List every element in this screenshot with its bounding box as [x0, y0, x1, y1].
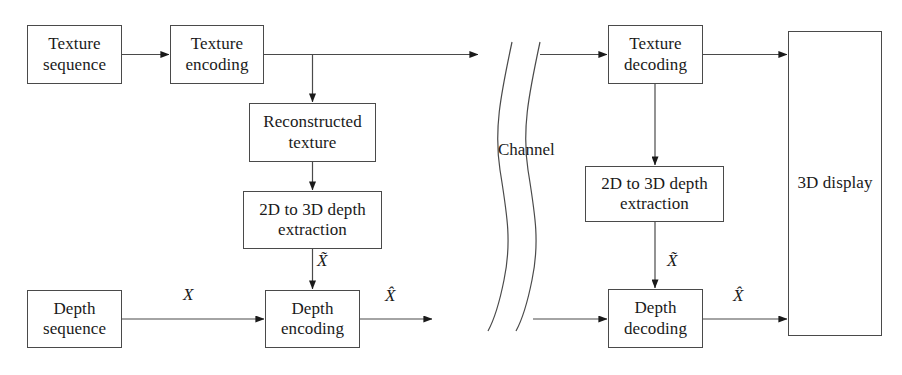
edge-label-x-plain-left: X	[183, 285, 193, 305]
edge-label-x-hat-right: X̂	[733, 286, 743, 306]
node-label: Depthencoding	[278, 299, 347, 339]
node-label: Depthsequence	[40, 299, 109, 339]
node-label: Texturesequence	[40, 34, 109, 74]
node-reconstructed-texture[interactable]: Reconstructedtexture	[249, 103, 376, 162]
node-label: 3D display	[794, 173, 875, 193]
node-texture-encoding[interactable]: Textureencoding	[170, 25, 264, 84]
diagram-canvas: Texturesequence Textureencoding Reconstr…	[0, 0, 902, 375]
edge-label-x-hat-left: X̂	[385, 286, 395, 306]
node-texture-decoding[interactable]: Texturedecoding	[608, 25, 703, 84]
channel-curve-left	[488, 42, 512, 331]
node-depth-extraction-right[interactable]: 2D to 3D depthextraction	[585, 166, 724, 222]
node-depth-decoding[interactable]: Depthdecoding	[608, 289, 703, 348]
node-texture-sequence[interactable]: Texturesequence	[27, 25, 122, 84]
node-depth-encoding[interactable]: Depthencoding	[265, 290, 360, 348]
node-depth-sequence[interactable]: Depthsequence	[27, 290, 122, 348]
channel-curve-right	[516, 42, 540, 331]
node-label: Depthdecoding	[621, 298, 690, 338]
node-label: 2D to 3D depthextraction	[256, 200, 369, 240]
edge-label-x-tilde-right: X̃	[667, 251, 677, 271]
node-label: 2D to 3D depthextraction	[598, 174, 711, 214]
node-label: Reconstructedtexture	[260, 112, 365, 152]
node-label: Texturedecoding	[621, 34, 690, 74]
edge-label-x-tilde-left: X̃	[317, 251, 327, 271]
channel-label: Channel	[498, 140, 555, 160]
node-depth-extraction-left[interactable]: 2D to 3D depthextraction	[243, 191, 382, 249]
node-label: Textureencoding	[182, 34, 251, 74]
node-3d-display[interactable]: 3D display	[788, 31, 882, 336]
diagram-connectors-layer	[0, 0, 902, 375]
